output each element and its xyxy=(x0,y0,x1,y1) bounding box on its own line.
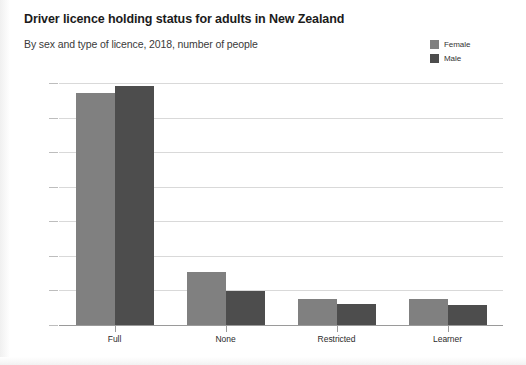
chart-card: Driver licence holding status for adults… xyxy=(0,0,526,365)
bar-learner-female[interactable] xyxy=(409,299,448,325)
legend-label: Female xyxy=(444,40,470,49)
plot-area xyxy=(59,83,503,325)
bar-restricted-female[interactable] xyxy=(298,299,337,325)
bar-none-female[interactable] xyxy=(187,272,226,325)
legend-label: Male xyxy=(444,54,461,63)
legend-swatch-female xyxy=(430,40,439,49)
y-axis-tick-mark xyxy=(49,290,58,291)
x-axis-label-full: Full xyxy=(108,334,122,344)
legend-item-female[interactable]: Female xyxy=(430,40,470,49)
bar-full-female[interactable] xyxy=(76,93,115,325)
y-axis-tick-mark xyxy=(49,187,58,188)
gridline xyxy=(59,83,503,84)
chart-subtitle: By sex and type of licence, 2018, number… xyxy=(24,38,258,50)
chart-title: Driver licence holding status for adults… xyxy=(24,12,344,26)
x-axis-label-learner: Learner xyxy=(433,334,462,344)
page-edge-shadow-left xyxy=(0,0,10,365)
page-edge-shadow-bottom xyxy=(0,357,526,365)
x-axis-tick-mark xyxy=(115,325,116,332)
legend-item-male[interactable]: Male xyxy=(430,54,470,63)
legend-swatch-male xyxy=(430,54,439,63)
x-axis-tick-mark xyxy=(226,325,227,332)
bar-restricted-male[interactable] xyxy=(337,304,376,325)
y-axis-tick-mark xyxy=(49,325,58,326)
x-axis-label-restricted: Restricted xyxy=(318,334,356,344)
bar-full-male[interactable] xyxy=(115,86,154,325)
chart-legend: FemaleMale xyxy=(430,40,470,63)
bar-learner-male[interactable] xyxy=(448,305,487,325)
y-axis-tick-mark xyxy=(49,152,58,153)
y-axis-tick-mark xyxy=(49,221,58,222)
bar-none-male[interactable] xyxy=(226,291,265,325)
y-axis-tick-mark xyxy=(49,256,58,257)
y-axis-tick-mark xyxy=(49,83,58,84)
y-axis-tick-mark xyxy=(49,118,58,119)
x-axis-label-none: None xyxy=(215,334,235,344)
x-axis-tick-mark xyxy=(448,325,449,332)
x-axis-line xyxy=(59,325,503,326)
x-axis-tick-mark xyxy=(337,325,338,332)
